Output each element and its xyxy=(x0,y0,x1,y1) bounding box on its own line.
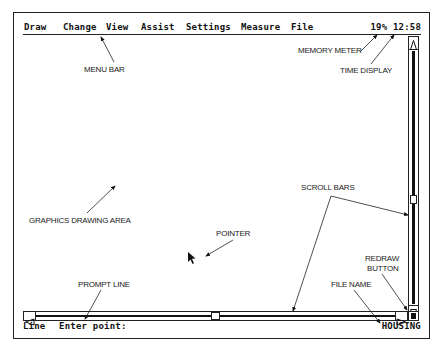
scroll-left-button[interactable] xyxy=(24,312,36,320)
up-arrow-icon xyxy=(409,39,418,51)
annotation-menu-bar: MENU BAR xyxy=(84,65,125,74)
redraw-button[interactable] xyxy=(408,311,419,321)
menu-view[interactable]: View xyxy=(106,22,128,32)
vertical-scrollbar[interactable] xyxy=(408,36,419,319)
file-name: HOUSING xyxy=(382,321,421,331)
annotation-redraw-button-line2: BUTTON xyxy=(367,264,399,273)
horizontal-scrollbar[interactable] xyxy=(23,311,408,321)
annotation-pointer: POINTER xyxy=(216,229,250,238)
prompt-command: Line xyxy=(23,321,45,331)
menu-settings[interactable]: Settings xyxy=(186,22,231,32)
prompt-message: Enter point: xyxy=(59,321,126,331)
redraw-square-icon xyxy=(411,313,416,319)
menu-measure[interactable]: Measure xyxy=(241,22,280,32)
status-area: 19% 12:58 xyxy=(370,22,421,32)
graphics-drawing-area[interactable] xyxy=(15,36,407,310)
annotation-graphics-drawing-area: GRAPHICS DRAWING AREA xyxy=(29,216,131,225)
time-display: 12:58 xyxy=(393,22,421,32)
menu-assist[interactable]: Assist xyxy=(141,22,175,32)
vertical-scroll-thumb[interactable] xyxy=(410,195,417,204)
scroll-right-button[interactable] xyxy=(395,312,407,320)
annotation-scroll-bars: SCROLL BARS xyxy=(301,183,355,192)
annotation-memory-meter: MEMORY METER xyxy=(298,46,362,55)
menu-file[interactable]: File xyxy=(291,22,313,32)
menu-bar: Draw Change View Assist Settings Measure… xyxy=(23,22,421,35)
annotation-time-display: TIME DISPLAY xyxy=(340,66,392,75)
scroll-up-button[interactable] xyxy=(409,37,418,50)
horizontal-scroll-thumb[interactable] xyxy=(211,312,220,320)
menu-change[interactable]: Change xyxy=(63,22,97,32)
prompt-line: Line Enter point: HOUSING xyxy=(23,321,421,331)
vertical-scroll-track[interactable] xyxy=(412,51,415,304)
annotation-prompt-line: PROMPT LINE xyxy=(78,280,130,289)
menu-draw[interactable]: Draw xyxy=(24,22,46,32)
annotation-redraw-button-line1: REDRAW xyxy=(365,254,399,263)
memory-meter: 19% xyxy=(370,22,387,32)
annotation-file-name: FILE NAME xyxy=(331,280,371,289)
